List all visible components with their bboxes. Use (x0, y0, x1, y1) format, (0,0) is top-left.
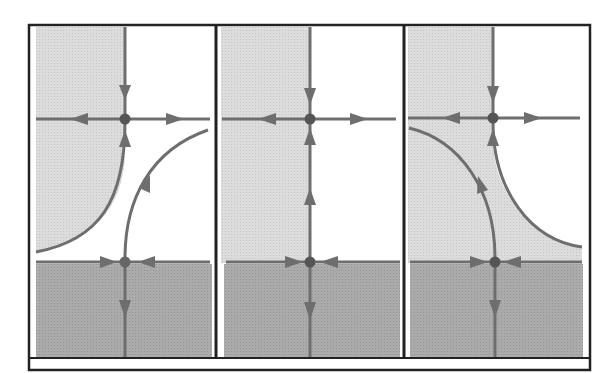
fixed-point-lower-right (490, 257, 501, 268)
fixed-point-upper-left (120, 114, 131, 125)
panel-middle (221, 27, 400, 357)
figure-canvas (0, 0, 611, 373)
panel-right (408, 27, 584, 357)
fixed-point-lower-left (120, 257, 131, 268)
phase-portrait-figure (0, 0, 611, 373)
fixed-point-upper-middle (305, 114, 316, 125)
panel-left (36, 27, 213, 357)
fixed-point-upper-right (488, 113, 499, 124)
fixed-point-lower-middle (305, 257, 316, 268)
